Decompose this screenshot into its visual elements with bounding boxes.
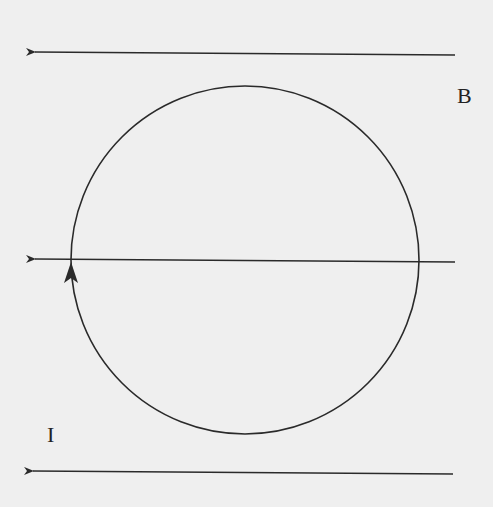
field-line-top <box>35 52 455 55</box>
current-label-i: I <box>47 422 54 448</box>
field-label-b: B <box>457 83 472 109</box>
diagram-canvas <box>0 0 493 507</box>
field-line-bottom <box>33 471 453 474</box>
field-line-middle <box>35 259 455 262</box>
current-direction-arrow-icon <box>64 262 78 283</box>
